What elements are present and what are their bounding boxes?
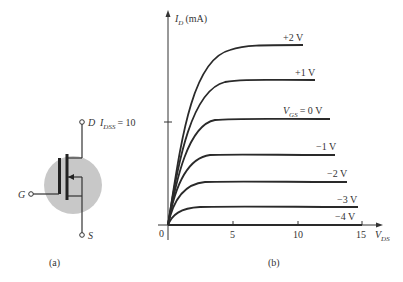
x-tick-15: 15 (356, 229, 366, 240)
curve-label-minus4v: −4 V (335, 211, 356, 222)
curve-label-minus3v: −3 V (337, 194, 358, 205)
curve-plus2v (168, 45, 303, 225)
curve-label-plus1v: +1 V (295, 67, 316, 78)
curve-group (168, 45, 362, 225)
y-axis-label: ID(mA) (174, 13, 207, 27)
panel-b-caption: (b) (268, 257, 280, 269)
drain-label: D (87, 117, 96, 128)
curve-label-minus2v: −2 V (327, 168, 348, 179)
characteristics-plot: ID(mA) IDSS= 10 0 5 10 15 VDS +2 V +1 V … (99, 10, 390, 243)
curve-0v (168, 119, 330, 225)
x-axis-arrow-icon (376, 223, 383, 228)
drain-terminal (80, 120, 85, 125)
x-tick-10: 10 (293, 229, 303, 240)
source-terminal (80, 233, 85, 238)
curve-minus3v (168, 207, 358, 225)
source-label: S (88, 230, 93, 241)
panel-a-caption: (a) (49, 257, 60, 269)
figure-canvas: D G S (a) ID(mA) IDSS= 10 (0, 0, 403, 282)
mosfet-symbol: D G S (18, 117, 102, 241)
curve-label-minus1v: −1 V (316, 141, 337, 152)
gate-terminal (29, 192, 34, 197)
curve-label-0v: VGS= 0 V (283, 105, 323, 119)
idss-label: IDSS= 10 (99, 117, 136, 131)
curve-minus1v (168, 155, 335, 225)
curve-plus1v (168, 80, 315, 225)
origin-label: 0 (159, 228, 164, 239)
y-axis-arrow-icon (166, 10, 171, 17)
x-tick-5: 5 (230, 229, 235, 240)
gate-label: G (18, 189, 25, 200)
curve-label-plus2v: +2 V (283, 32, 304, 43)
curve-minus2v (168, 182, 347, 225)
symbol-circle (44, 156, 102, 214)
x-axis-label: VDS (375, 229, 390, 243)
